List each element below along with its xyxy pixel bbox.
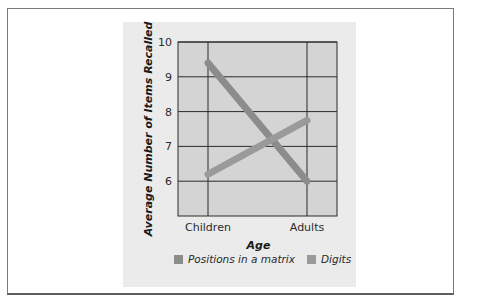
legend: Positions in a matrix Digits: [174, 253, 363, 265]
y-tick-label: 10: [158, 36, 172, 49]
legend-label: Positions in a matrix: [188, 253, 295, 265]
y-axis-title: Average Number of Items Recalled: [142, 22, 155, 238]
x-axis-title: Age: [246, 239, 271, 252]
legend-swatch-icon: [307, 255, 316, 264]
legend-item-positions: Positions in a matrix: [174, 253, 295, 265]
legend-swatch-icon: [174, 255, 183, 264]
x-tick-label: Children: [185, 221, 231, 234]
x-tick-label: Adults: [290, 221, 325, 234]
legend-item-digits: Digits: [307, 253, 351, 265]
plot-area: [178, 42, 337, 216]
y-tick-label: 7: [165, 140, 172, 153]
y-tick-label: 8: [165, 106, 172, 119]
legend-label: Digits: [321, 253, 351, 265]
y-tick-label: 6: [165, 175, 172, 188]
y-tick-label: 9: [165, 71, 172, 84]
